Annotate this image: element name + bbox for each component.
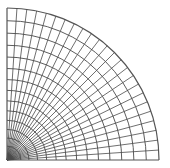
mesh-spoke bbox=[7, 8, 17, 160]
quarter-circle-mesh bbox=[0, 0, 170, 168]
mesh-spoke bbox=[7, 150, 159, 160]
mesh-lines bbox=[7, 8, 159, 160]
mesh-spoke bbox=[7, 53, 114, 160]
mesh-spoke bbox=[7, 102, 147, 160]
mesh-spoke bbox=[7, 20, 65, 160]
